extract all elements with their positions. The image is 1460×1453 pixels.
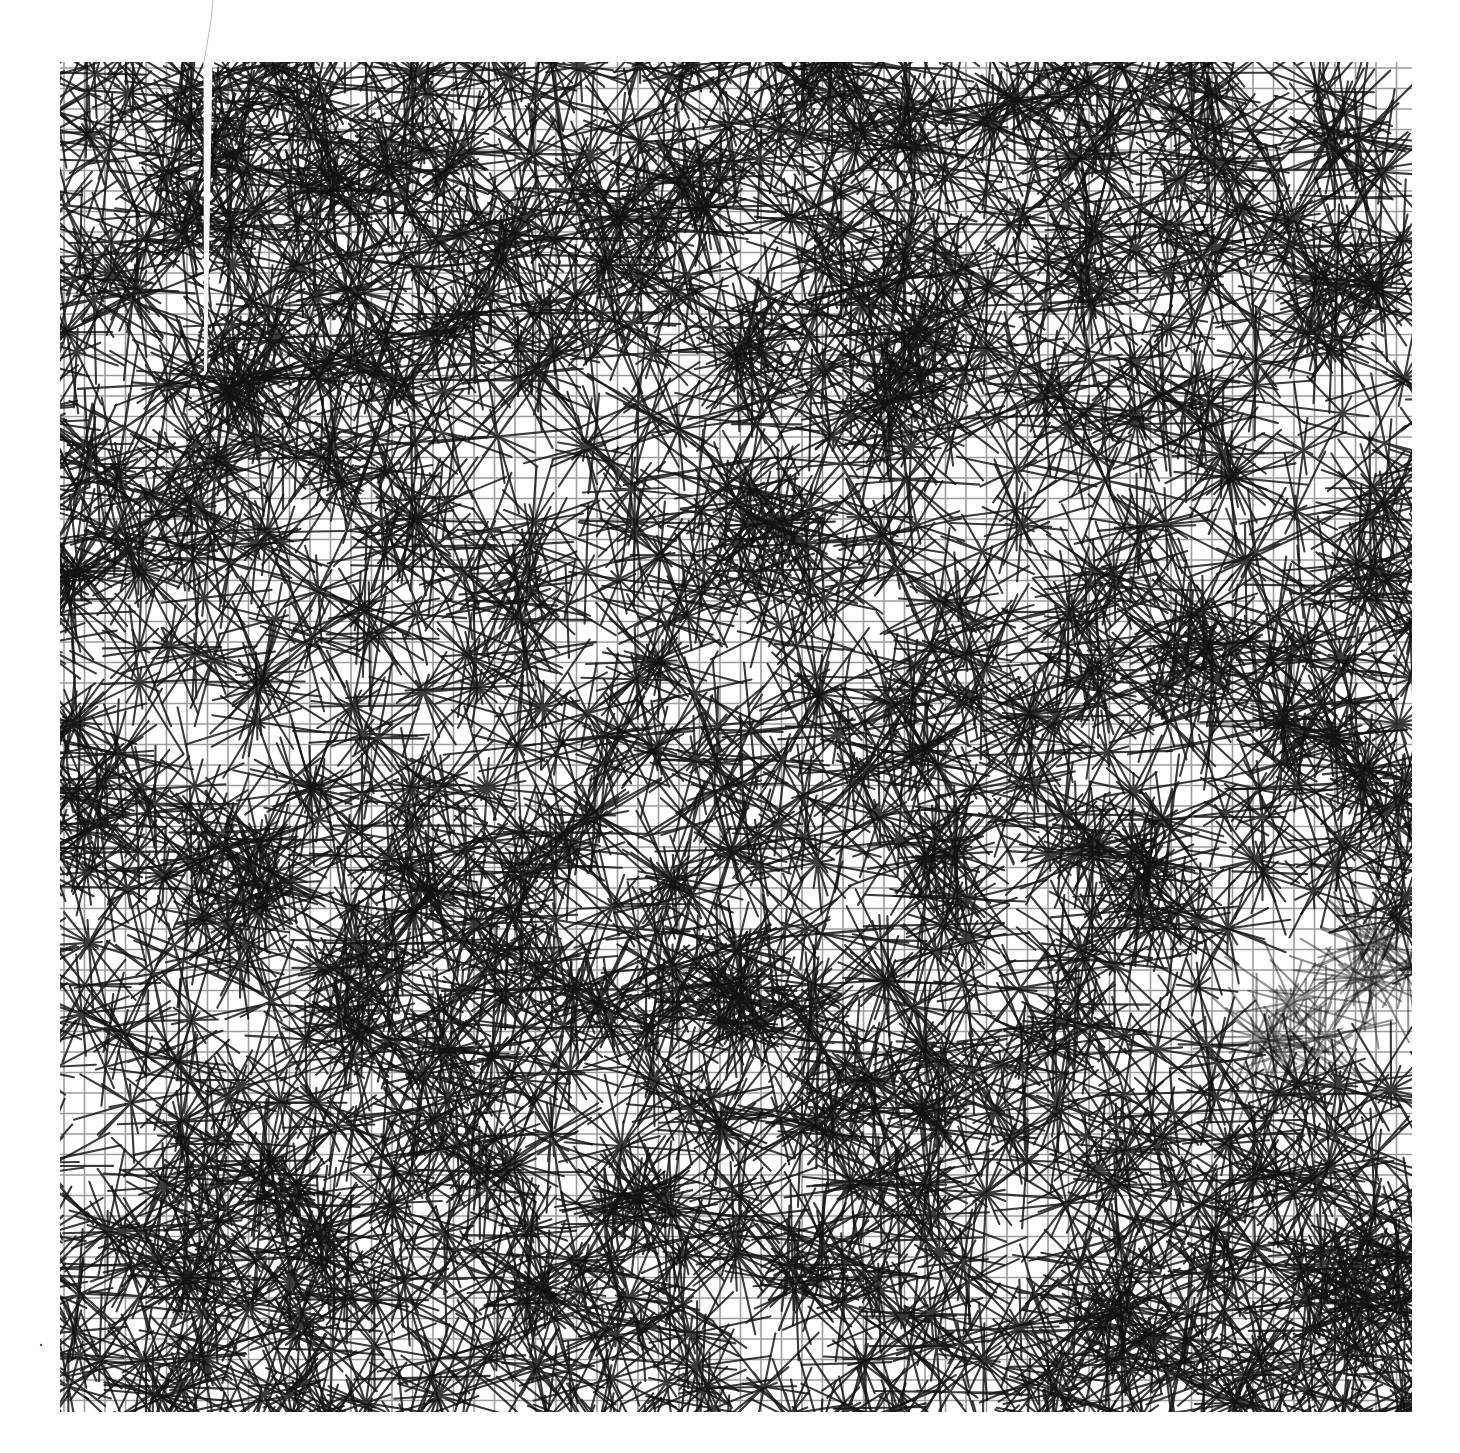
generative-line-artwork xyxy=(0,0,1460,1453)
